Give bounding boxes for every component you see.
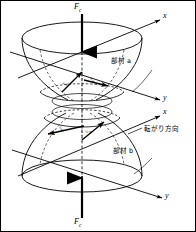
force-label-bottom: Fc xyxy=(74,218,81,228)
upper-y-axis-label: y xyxy=(163,94,167,102)
member-leaders xyxy=(132,70,152,174)
member-b-leader xyxy=(134,158,152,174)
figure-root: Fc Fc x y x y 部材 a 部材 b 転がり方向 vax vay vb… xyxy=(0,0,196,232)
member-a-leader xyxy=(132,70,152,92)
lower-right-wall xyxy=(98,113,142,176)
force-top-subscript: c xyxy=(79,7,81,13)
vector-v-ay xyxy=(84,80,108,86)
lower-meridian-left xyxy=(40,113,74,164)
lower-x-axis xyxy=(18,116,160,176)
vector-v-bx xyxy=(48,126,84,134)
lower-y-axis-label: y xyxy=(165,192,169,200)
lower-y-axis xyxy=(12,150,162,198)
upper-x-axis-label: x xyxy=(163,12,167,20)
lower-left-wall xyxy=(22,113,66,176)
member-b-label: 部材 b xyxy=(113,148,133,155)
force-bottom-subscript: c xyxy=(79,222,81,228)
member-a-label: 部材 a xyxy=(111,58,131,65)
lower-x-axis-label: x xyxy=(163,108,167,116)
force-label-top: Fc xyxy=(74,3,81,13)
rolling-direction-label: 転がり方向 xyxy=(144,126,179,133)
